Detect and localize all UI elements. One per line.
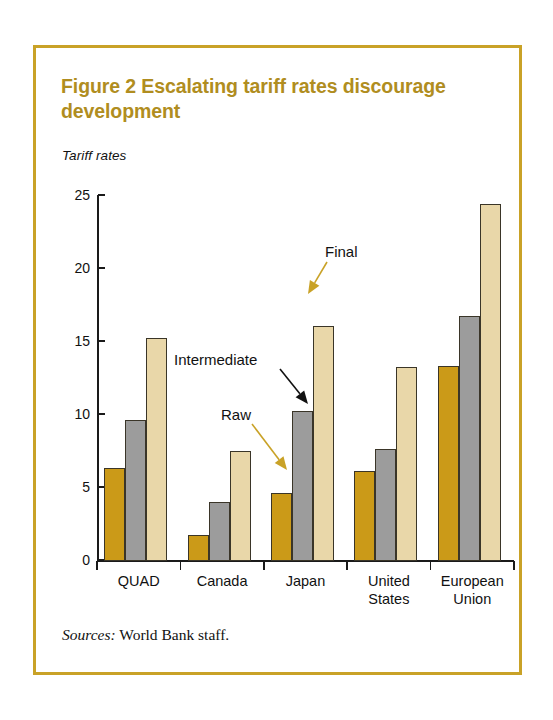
x-axis-label-european-union: EuropeanUnion	[431, 572, 514, 608]
y-tick-label: 5	[62, 479, 90, 495]
bar-canada-raw	[188, 535, 209, 561]
source-text: World Bank staff.	[116, 626, 230, 643]
arrow-intermediate-shaft	[280, 369, 300, 394]
annotation-label-raw: Raw	[221, 406, 251, 423]
x-tick-mark	[180, 561, 182, 570]
y-tick-mark	[98, 194, 105, 196]
bar-canada-intermediate	[209, 502, 230, 561]
bar-european-union-final	[480, 204, 501, 561]
bar-united-states-raw	[354, 471, 375, 561]
figure-frame: Figure 2 Escalating tariff rates discour…	[33, 45, 522, 675]
arrow-intermediate-head	[296, 390, 308, 404]
bar-quad-intermediate	[125, 420, 146, 561]
bar-quad-final	[146, 338, 167, 561]
arrow-raw-head	[275, 456, 287, 470]
arrow-final-head	[308, 280, 319, 294]
y-tick-label: 20	[62, 260, 90, 276]
bar-japan-intermediate	[292, 411, 313, 561]
y-tick-mark	[98, 413, 105, 415]
x-axis-label-united-states: UnitedStates	[347, 572, 430, 608]
bar-japan-final	[313, 326, 334, 561]
bar-united-states-intermediate	[375, 449, 396, 561]
bar-european-union-raw	[438, 366, 459, 561]
x-tick-mark	[430, 561, 432, 570]
x-tick-mark	[263, 561, 265, 570]
arrow-raw-shaft	[252, 424, 279, 460]
x-axis-label-japan: Japan	[264, 572, 347, 590]
bar-quad-raw	[104, 468, 125, 561]
y-tick-label: 10	[62, 406, 90, 422]
bar-european-union-intermediate	[459, 316, 480, 561]
bar-canada-final	[230, 451, 251, 562]
x-axis-label-quad: QUAD	[97, 572, 180, 590]
bar-japan-raw	[271, 493, 292, 561]
annotation-label-final: Final	[325, 243, 358, 260]
x-tick-mark	[96, 561, 98, 570]
annotation-label-intermediate: Intermediate	[174, 351, 257, 368]
arrow-final-shaft	[315, 262, 327, 283]
y-axis-line	[97, 195, 99, 561]
source-lead: Sources:	[62, 626, 116, 643]
x-axis-label-canada: Canada	[180, 572, 263, 590]
y-tick-label: 15	[62, 333, 90, 349]
bar-united-states-final	[396, 367, 417, 561]
source-note: Sources: World Bank staff.	[62, 626, 229, 644]
bar-chart-plot-area: 0510152025 QUADCanadaJapanUnitedStatesEu…	[36, 48, 525, 678]
y-tick-mark	[98, 267, 105, 269]
x-tick-mark	[513, 561, 515, 570]
y-tick-mark	[98, 340, 105, 342]
x-tick-mark	[346, 561, 348, 570]
y-tick-label: 0	[62, 552, 90, 568]
y-tick-label: 25	[62, 187, 90, 203]
